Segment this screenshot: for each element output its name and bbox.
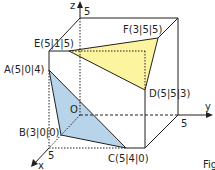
point-label-a: A(5|0|4) <box>4 64 45 76</box>
triangle-abc <box>49 70 126 148</box>
edge-bottom-right-diag <box>145 115 178 148</box>
origin-label: O <box>70 104 78 115</box>
point-label-c: C(5|4|0) <box>108 153 149 165</box>
point-label-b: B(3|0|0) <box>19 127 60 139</box>
cube-diagram: z 5 y 5 x 5 O E(5|1|5) F(3|5|5) A(5|0|4)… <box>0 0 215 170</box>
x-axis-tick: 5 <box>48 150 54 161</box>
figure-caption: Fig <box>203 159 215 170</box>
y-axis-arrowhead <box>206 112 213 118</box>
x-axis-label: x <box>38 160 44 170</box>
z-axis-tick: 5 <box>84 6 90 17</box>
point-label-f: F(3|5|5) <box>123 24 162 36</box>
point-label-e: E(5|1|5) <box>34 38 74 50</box>
y-axis-label: y <box>205 101 211 112</box>
y-axis-tick: 5 <box>181 118 187 129</box>
point-label-d: D(5|5|3) <box>149 88 190 100</box>
z-axis-arrowhead <box>77 1 83 8</box>
z-axis-label: z <box>70 0 75 11</box>
